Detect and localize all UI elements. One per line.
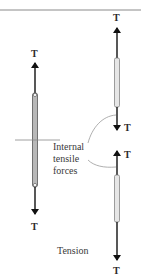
- leader-upper: [88, 115, 116, 143]
- upper-top-force-label: T: [113, 13, 120, 23]
- annotation-line: forces: [53, 165, 84, 177]
- annotation-line: tensile: [53, 153, 84, 165]
- annotation-line: Internal: [53, 141, 84, 153]
- upper-bar: [115, 58, 120, 107]
- left-bar-bottom-pin: [33, 183, 36, 186]
- upper-bottom-force-label: T: [124, 123, 131, 133]
- left-bar-top-pin: [33, 93, 36, 96]
- left-member: [15, 63, 60, 214]
- lower-bottom-force-label: T: [113, 266, 120, 276]
- left-bottom-force-label: T: [31, 222, 38, 232]
- diagram-graphics: [0, 0, 141, 279]
- left-top-force-label: T: [31, 49, 38, 59]
- lower-top-force-label: T: [124, 150, 131, 160]
- caption-tension: Tension: [57, 245, 89, 257]
- lower-bar: [115, 175, 120, 222]
- internal-forces-annotation: Internal tensile forces: [53, 141, 84, 177]
- leader-lower: [88, 160, 116, 167]
- tension-diagram: T T T T T T Internal tensile forces Tens…: [0, 0, 141, 279]
